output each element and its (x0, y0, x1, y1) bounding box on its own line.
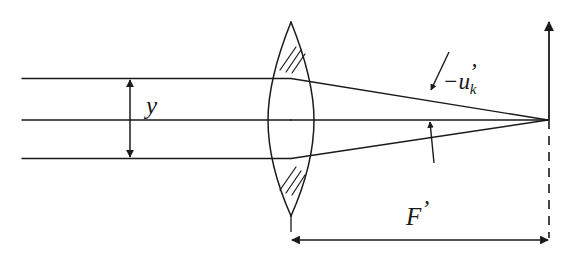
hatch-stroke (292, 54, 305, 73)
minus-sign: − (443, 69, 459, 94)
focal-length-symbol: F (406, 203, 421, 230)
lower-marginal-ray-refracted (291, 120, 548, 159)
lens-left-surface (268, 22, 291, 216)
focal-length-label: F’ (406, 196, 429, 229)
hatch-stroke (280, 167, 296, 190)
hatch-stroke (280, 47, 296, 70)
angle-pointer-up-arrow (430, 122, 434, 163)
hatch-stroke (286, 50, 301, 72)
optical-diagram-figure: y −u’k F’ (0, 0, 577, 268)
hatch-stroke (286, 171, 301, 193)
prime-mark: ’ (421, 195, 429, 221)
angle-subscript: k (470, 81, 477, 97)
marginal-ray-angle-label: −u’k (443, 60, 476, 97)
diagram-canvas (0, 0, 577, 268)
lens (268, 22, 314, 216)
refracted-ray-bundle (291, 79, 548, 159)
upper-marginal-ray-refracted (291, 79, 548, 121)
lens-right-surface (291, 22, 314, 216)
ray-height-label: y (146, 93, 157, 118)
